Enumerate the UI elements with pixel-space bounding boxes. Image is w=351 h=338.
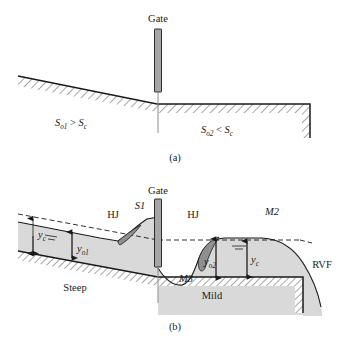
panel-b-gate-body — [155, 199, 162, 267]
panel-b-profile-s1-label: S1 — [135, 200, 146, 211]
panel-b-end-wall — [295, 277, 303, 313]
panel-a-caption: (a) — [169, 152, 181, 164]
panel-b-profile-m2-label: M2 — [264, 206, 280, 217]
panel-b-reach-mild-label: Mild — [202, 290, 223, 301]
panel-a-steep-bed — [18, 76, 157, 112]
panel-a-end-wall — [302, 104, 310, 138]
panel-a-gate-body — [155, 29, 162, 92]
panel-a-downstream-slope-label: So2 < Sc — [201, 124, 234, 138]
flow-profile-figure: Gate So1 > Sc So2 < Sc (a) — [0, 0, 351, 338]
panel-a-upstream-slope-label: So1 > Sc — [55, 117, 88, 131]
panel-b-gate-label: Gate — [148, 185, 168, 196]
panel-b: Gate HJ S1 HJ M2 M3 RVF Steep — [18, 185, 332, 333]
panel-a-gate-label: Gate — [148, 13, 168, 24]
panel-b-rvf-label: RVF — [312, 259, 332, 270]
panel-a-mild-bed — [157, 104, 310, 113]
figure-root: Gate So1 > Sc So2 < Sc (a) — [0, 0, 351, 338]
panel-b-critical-line-tail — [300, 240, 312, 243]
panel-a: Gate So1 > Sc So2 < Sc (a) — [18, 13, 310, 164]
panel-b-hj-left-label: HJ — [107, 209, 119, 220]
panel-b-profile-m3-label: M3 — [178, 273, 193, 284]
panel-b-reach-steep-label: Steep — [63, 282, 86, 293]
panel-b-caption: (b) — [169, 321, 182, 333]
panel-b-hj-right-label: HJ — [187, 209, 199, 220]
